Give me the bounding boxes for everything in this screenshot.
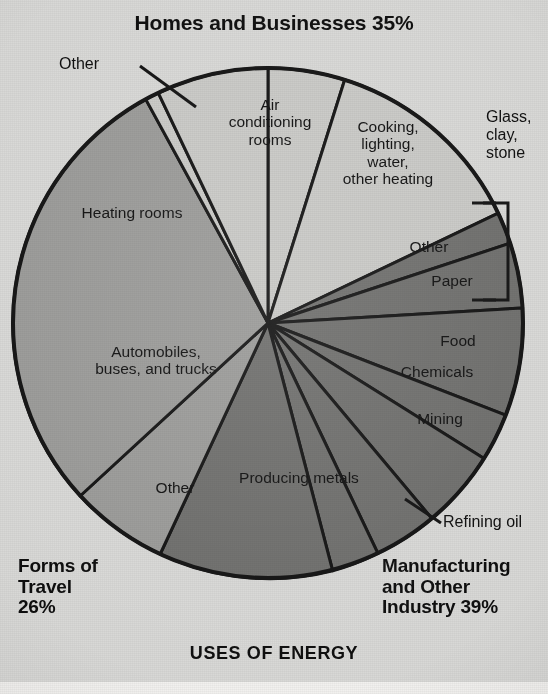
slice-label-producing-metals: Producing metals xyxy=(215,469,383,486)
slice-label-chemicals: Chemicals xyxy=(388,363,486,380)
slice-label-mining: Mining xyxy=(404,410,476,427)
slice-label-travel-other: Other xyxy=(141,479,209,496)
group-label-manufacturing-industry: Manufacturing and Other Industry 39% xyxy=(382,556,510,618)
slice-label-air-conditioning-rooms: Air conditioning rooms xyxy=(222,96,318,148)
group-label-forms-of-travel: Forms of Travel 26% xyxy=(18,556,98,618)
slice-label-automobiles-buses-trucks: Automobiles, buses, and trucks xyxy=(66,343,246,378)
slice-label-food: Food xyxy=(430,332,486,349)
page-title-homes-businesses: Homes and Businesses 35% xyxy=(0,12,548,35)
callout-label-glass-clay-stone: Glass, clay, stone xyxy=(486,108,546,162)
slice-label-industry-other: Other xyxy=(396,238,462,255)
page-bottom-strip xyxy=(0,682,548,694)
callout-label-refining-oil: Refining oil xyxy=(443,513,547,531)
slice-label-heating-rooms: Heating rooms xyxy=(57,204,207,221)
slice-label-paper: Paper xyxy=(421,272,483,289)
callout-label-homes-other: Other xyxy=(59,55,129,73)
energy-pie-chart-figure: Homes and Businesses 35% Forms of Travel… xyxy=(0,0,548,694)
slice-label-cooking-lighting-water-other-heating: Cooking, lighting, water, other heating xyxy=(330,118,446,187)
figure-title: USES OF ENERGY xyxy=(0,644,548,663)
